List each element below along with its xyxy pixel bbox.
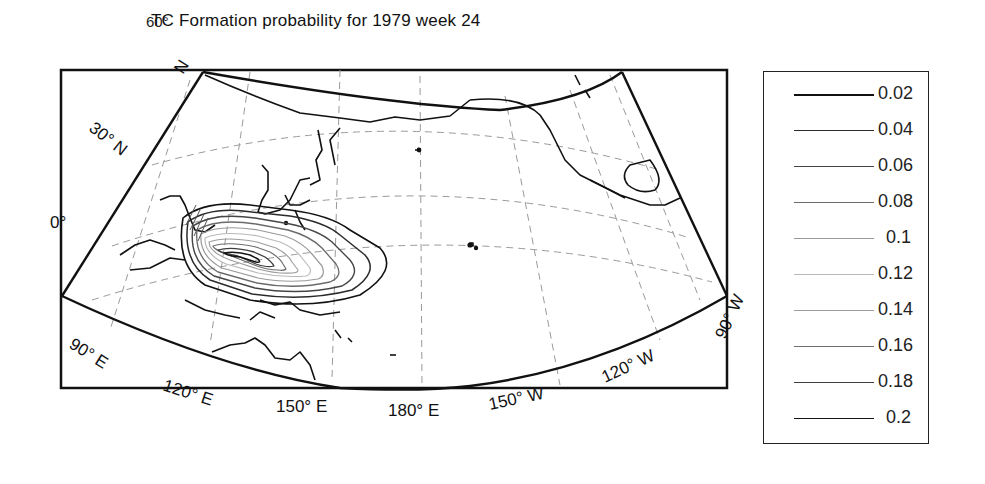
legend-label: 0.16: [878, 335, 913, 356]
legend-item: 0.08: [764, 186, 928, 220]
legend-label: 0.2: [886, 407, 911, 428]
legend-item: 0.04: [764, 114, 928, 148]
probability-contours: [181, 204, 386, 304]
legend-item: 0.14: [764, 294, 928, 328]
legend-line: [794, 130, 874, 131]
contour-legend: 0.02 0.04 0.06 0.08 0.1 0.12 0.14 0.16 0…: [763, 71, 929, 444]
legend-label: 0.08: [878, 191, 913, 212]
legend-line: [794, 238, 874, 239]
lat-labels: N 30° N 0°: [50, 57, 193, 232]
legend-item: 0.06: [764, 150, 928, 184]
legend-label: 0.12: [878, 263, 913, 284]
legend-line: [794, 166, 874, 167]
legend-line: [794, 346, 874, 347]
svg-text:120° E: 120° E: [161, 376, 216, 410]
legend-line: [794, 94, 874, 96]
svg-text:90° W: 90° W: [711, 292, 748, 342]
lat-label-60n: N: [170, 57, 193, 77]
legend-line: [794, 382, 874, 383]
svg-text:90° E: 90° E: [66, 334, 112, 372]
lat-label-30n: 30° N: [86, 118, 131, 159]
islands: [284, 148, 478, 251]
legend-item: 0.16: [764, 330, 928, 364]
lat-label-0: 0°: [50, 213, 66, 232]
legend-line: [794, 310, 874, 311]
legend-item: 0.02: [764, 78, 928, 112]
lon-labels: 90° E 120° E 150° E 180° E 150° W 120° W…: [66, 292, 748, 420]
legend-item: 0.18: [764, 366, 928, 400]
legend-item: 0.1: [764, 222, 928, 256]
legend-line: [794, 202, 874, 203]
legend-label: 0.14: [878, 299, 913, 320]
legend-label: 0.04: [878, 119, 913, 140]
legend-label: 0.1: [886, 227, 911, 248]
legend-label: 0.18: [878, 371, 913, 392]
svg-text:180° E: 180° E: [388, 401, 439, 420]
legend-line: [794, 274, 874, 275]
legend-label: 0.06: [878, 155, 913, 176]
legend-item: 0.12: [764, 258, 928, 292]
legend-line: [794, 418, 874, 419]
legend-item: 0.2: [764, 402, 928, 436]
legend-label: 0.02: [878, 83, 913, 104]
svg-text:150° E: 150° E: [276, 397, 327, 416]
